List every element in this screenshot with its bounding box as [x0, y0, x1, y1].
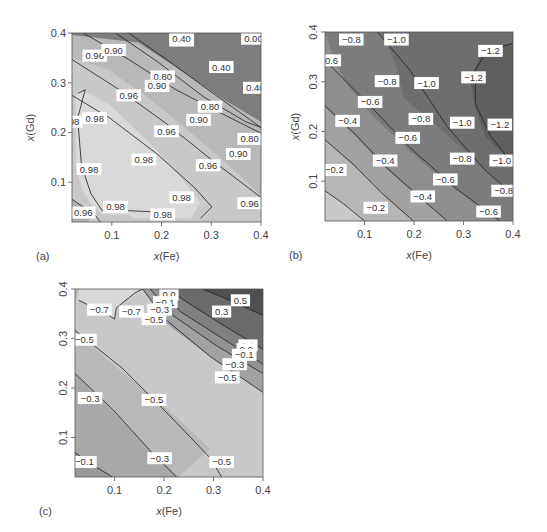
- contour-label: −0.4: [335, 115, 360, 127]
- svg-text:−1.2: −1.2: [464, 72, 483, 83]
- svg-text:−0.5: −0.5: [145, 314, 164, 325]
- svg-text:−0.8: −0.8: [494, 185, 513, 196]
- contour-label: 0.90: [101, 44, 126, 56]
- contour-label: 0.80: [237, 133, 262, 145]
- svg-text:0.40: 0.40: [246, 82, 265, 93]
- svg-text:−0.8: −0.8: [342, 34, 361, 45]
- contour-label: −0.6: [433, 173, 458, 185]
- svg-text:0.00: 0.00: [244, 33, 263, 44]
- contour-label: −0.8: [339, 34, 364, 46]
- contour-label: 0.98: [82, 112, 107, 124]
- svg-text:−0.6: −0.6: [361, 96, 380, 107]
- contour-label: 0.40: [243, 82, 268, 94]
- contour-label: 0.98: [169, 191, 194, 203]
- svg-text:0.90: 0.90: [148, 80, 167, 91]
- x-tick-label: 0.4: [255, 484, 270, 496]
- y-tick-label: 0.4: [51, 27, 66, 39]
- contour-label: −0.6: [316, 54, 341, 66]
- svg-text:−0.2: −0.2: [325, 164, 344, 175]
- contour-label: −0.5: [142, 394, 167, 406]
- x-axis-title: x(Fe): [155, 505, 182, 517]
- svg-text:−0.7: −0.7: [122, 306, 141, 317]
- x-tick-label: 0.2: [156, 484, 171, 496]
- contour-label: −0.3: [147, 452, 172, 464]
- contour-label: 0.96: [196, 159, 221, 171]
- contour-label: −1.2: [488, 119, 513, 131]
- x-tick-label: 0.1: [107, 484, 122, 496]
- contour-label: 0.40: [209, 61, 234, 73]
- svg-text:−1.0: −1.0: [492, 155, 511, 166]
- svg-text:0.3: 0.3: [215, 306, 228, 317]
- y-tick-label: 0.3: [51, 77, 66, 89]
- panel-b: −0.8−1.0−1.2−0.6−0.8−1.0−1.2−0.6−0.4−0.8…: [289, 24, 521, 261]
- svg-text:0.98: 0.98: [85, 113, 104, 124]
- contour-label: 0.96: [237, 197, 262, 209]
- svg-text:−0.4: −0.4: [338, 115, 357, 126]
- x-tick-label: 0.2: [406, 228, 421, 240]
- svg-text:0.80: 0.80: [240, 133, 259, 144]
- svg-text:−0.7: −0.7: [90, 304, 109, 315]
- svg-text:0.98: 0.98: [106, 201, 125, 212]
- svg-text:0.96: 0.96: [85, 50, 104, 61]
- svg-text:0.40: 0.40: [172, 33, 191, 44]
- x-tick-label: 0.4: [505, 228, 520, 240]
- contour-label: 0.40: [169, 33, 194, 45]
- panel-c: −0.7−0.70.0−0.1−0.3−0.50.50.3−0.50.10.0−…: [39, 281, 271, 517]
- y-tick-label: 0.1: [51, 176, 66, 188]
- contour-label: −1.2: [461, 71, 486, 83]
- contour-label: −1.0: [450, 117, 475, 129]
- y-tick-label: 0.1: [307, 174, 319, 189]
- x-tick-label: 0.1: [104, 229, 119, 241]
- svg-text:−0.4: −0.4: [376, 155, 395, 166]
- x-tick-label: 0.3: [456, 228, 471, 240]
- svg-text:−0.5: −0.5: [145, 394, 164, 405]
- contour-label: −0.4: [410, 190, 435, 202]
- contour-label: 0.98: [150, 208, 175, 220]
- contour-label: 0.80: [198, 101, 223, 113]
- y-tick-label: 0.1: [57, 430, 69, 445]
- y-tick-label: 0.3: [307, 74, 319, 89]
- x-tick-label: 0.4: [253, 229, 268, 241]
- plot-area: 0.800.400.000.960.900.400.800.900.400.96…: [58, 33, 268, 222]
- contour-label: −1.0: [489, 155, 514, 167]
- svg-text:0.98: 0.98: [135, 154, 154, 165]
- contour-label: −0.2: [363, 202, 388, 214]
- contour-label: −0.5: [215, 371, 240, 383]
- contour-label: −0.8: [375, 75, 400, 87]
- contour-label: 0.3: [212, 306, 231, 318]
- contour-figure: 0.800.400.000.960.900.400.800.900.400.96…: [0, 0, 547, 532]
- y-tick-label: 0.2: [57, 380, 69, 395]
- svg-text:−0.5: −0.5: [218, 372, 237, 383]
- contour-label: −0.3: [78, 392, 103, 404]
- svg-text:0.40: 0.40: [212, 62, 231, 73]
- contour-label: 0.98: [77, 163, 102, 175]
- x-axis-title: x(Fe): [405, 249, 432, 261]
- svg-text:−1.0: −1.0: [453, 117, 472, 128]
- y-tick-label: 0.3: [57, 331, 69, 346]
- contour-label: −0.6: [358, 96, 383, 108]
- contour-label: −0.3: [223, 358, 248, 370]
- plot-area: −0.7−0.70.0−0.1−0.3−0.50.50.3−0.50.10.0−…: [72, 289, 263, 477]
- svg-text:0.98: 0.98: [153, 209, 172, 220]
- contour-label: 0.90: [226, 148, 251, 160]
- contour-label: 0.5: [231, 294, 250, 306]
- svg-text:0.96: 0.96: [74, 207, 93, 218]
- contour-label: −0.7: [119, 306, 144, 318]
- y-tick-label: 0.4: [57, 281, 69, 296]
- contour-label: 0.96: [154, 125, 179, 137]
- svg-text:0.96: 0.96: [119, 90, 138, 101]
- contour-label: −0.1: [72, 456, 97, 468]
- svg-text:−0.5: −0.5: [75, 334, 94, 345]
- y-tick-label: 0.2: [51, 126, 66, 138]
- contour-label: −0.5: [209, 456, 234, 468]
- panel-label: (b): [289, 249, 302, 261]
- svg-text:−0.6: −0.6: [479, 206, 498, 217]
- contour-label: 0.98: [132, 154, 157, 166]
- y-axis-title: x(Gd): [24, 114, 36, 143]
- contour-label: −0.6: [476, 206, 501, 218]
- svg-text:−1.0: −1.0: [417, 78, 436, 89]
- svg-text:−0.1: −0.1: [75, 456, 94, 467]
- contour-label: −0.8: [409, 113, 434, 125]
- svg-text:−0.6: −0.6: [398, 132, 417, 143]
- svg-text:−0.8: −0.8: [378, 76, 397, 87]
